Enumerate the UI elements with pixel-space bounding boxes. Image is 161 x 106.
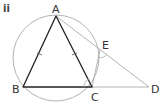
label-A: A [52, 3, 60, 16]
label-B: B [12, 83, 20, 96]
triangle-ABC [23, 16, 92, 87]
line-CE [92, 50, 100, 87]
circumcircle [13, 15, 99, 101]
label-C: C [91, 91, 99, 104]
part-label: ii [3, 3, 10, 14]
geometry-diagram: ii A B C D E [0, 0, 161, 106]
label-D: D [151, 83, 159, 96]
label-E: E [102, 39, 109, 52]
